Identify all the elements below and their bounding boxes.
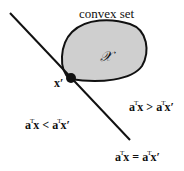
operator: < bbox=[39, 118, 52, 132]
var-x-prime: x′ bbox=[60, 118, 69, 132]
halfspace-greater-label: aTx > aTx′ bbox=[129, 100, 174, 113]
var-x-prime: x′ bbox=[164, 100, 173, 114]
set-symbol: 𝒳 bbox=[100, 50, 112, 64]
operator: > bbox=[143, 100, 156, 114]
operator: = bbox=[129, 150, 142, 164]
halfspace-less-label: aTx < aTx′ bbox=[25, 118, 70, 131]
tangent-point-marker bbox=[66, 73, 76, 83]
hyperplane-equation-label: aTx = aTx′ bbox=[115, 150, 160, 163]
point-label: x′ bbox=[54, 77, 63, 89]
diagram-canvas bbox=[0, 0, 184, 171]
var-x-prime: x′ bbox=[150, 150, 159, 164]
convex-set-title: convex set bbox=[79, 7, 134, 20]
